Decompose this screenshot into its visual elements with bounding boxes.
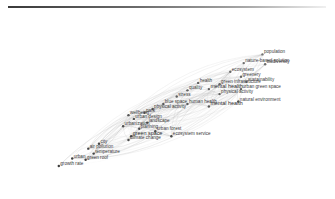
node-label[interactable]: green roof bbox=[87, 155, 109, 160]
keyword-network: populationnature-based solutionbiodivers… bbox=[0, 0, 335, 199]
node-label[interactable]: population bbox=[264, 49, 286, 54]
node-label[interactable]: natural environment bbox=[240, 97, 281, 102]
node-label[interactable]: mental health bbox=[210, 100, 242, 106]
node-label[interactable]: biodiversity bbox=[267, 59, 291, 64]
network-canvas: populationnature-based solutionbiodivers… bbox=[0, 0, 335, 199]
node-label[interactable]: growth rate bbox=[60, 161, 83, 166]
node-label[interactable]: ecosystem service bbox=[173, 131, 211, 136]
node-label[interactable]: quality bbox=[189, 85, 203, 90]
node-label[interactable]: stress bbox=[178, 92, 191, 97]
node-label[interactable]: temperature bbox=[95, 149, 120, 154]
node-label[interactable]: landscape bbox=[149, 118, 170, 123]
node-label[interactable]: climate change bbox=[130, 135, 161, 140]
node-label[interactable]: physical activity bbox=[221, 89, 254, 94]
node-label[interactable]: physical activity bbox=[154, 104, 187, 109]
node-label[interactable]: urban bbox=[74, 154, 86, 159]
